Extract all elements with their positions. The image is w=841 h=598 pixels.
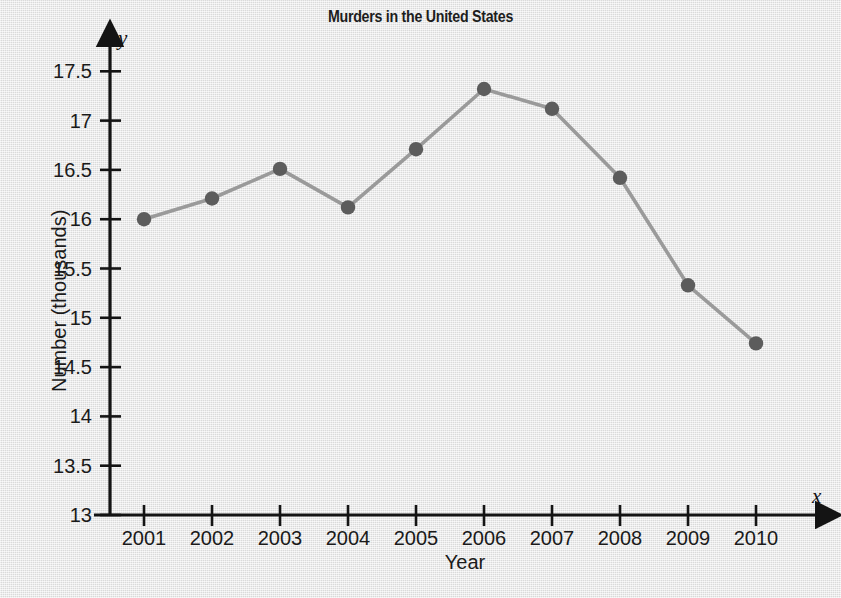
data-point xyxy=(341,200,355,214)
x-axis-tick-label: 2006 xyxy=(462,527,507,550)
y-axis-symbol-label: y xyxy=(118,26,127,51)
x-axis-tick-label: 2004 xyxy=(326,527,371,550)
x-axis-tick-label: 2001 xyxy=(122,527,167,550)
data-point xyxy=(681,278,695,292)
data-point xyxy=(477,82,491,96)
data-point xyxy=(613,171,627,185)
x-axis-title: Year xyxy=(445,551,485,574)
x-axis-tick-label: 2009 xyxy=(666,527,711,550)
y-axis-tick-label: 13 xyxy=(20,504,92,527)
x-axis-tick-label: 2008 xyxy=(598,527,643,550)
y-axis-tick-label: 16.5 xyxy=(20,158,92,181)
data-points xyxy=(137,82,763,351)
data-point xyxy=(205,191,219,205)
chart-figure: Murders in the United States 1313.51414.… xyxy=(0,0,841,598)
data-point xyxy=(409,142,423,156)
x-axis-tick-label: 2003 xyxy=(258,527,303,550)
data-point xyxy=(273,162,287,176)
y-axis-tick-label: 17 xyxy=(20,109,92,132)
y-axis-title: Number (thousands) xyxy=(48,210,71,392)
x-axis-tick-label: 2007 xyxy=(530,527,575,550)
y-axis-tick-label: 17.5 xyxy=(20,60,92,83)
x-axis-tick-label: 2005 xyxy=(394,527,439,550)
data-point xyxy=(545,102,559,116)
y-axis-tick-label: 13.5 xyxy=(20,454,92,477)
x-axis-symbol-label: x xyxy=(812,484,821,509)
plot-area xyxy=(0,0,841,598)
y-axis-tick-label: 14 xyxy=(20,405,92,428)
data-point xyxy=(137,212,151,226)
data-line xyxy=(144,89,756,343)
x-axis-tick-label: 2002 xyxy=(190,527,235,550)
data-point xyxy=(749,336,763,350)
x-axis-tick-label: 2010 xyxy=(734,527,779,550)
